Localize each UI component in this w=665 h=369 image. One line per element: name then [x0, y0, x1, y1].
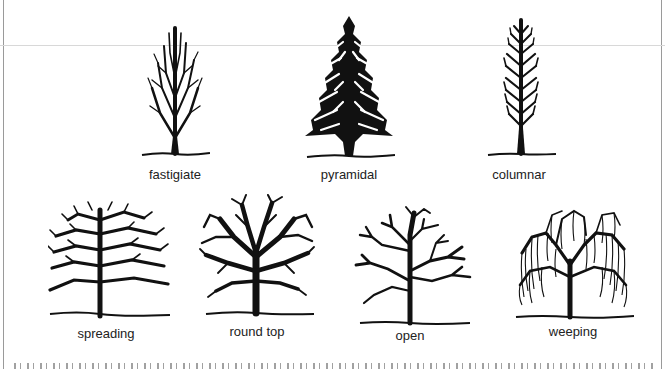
- caption-spreading: spreading: [77, 326, 134, 341]
- caption-columnar: columnar: [492, 167, 545, 182]
- text-fragment: [14, 363, 654, 369]
- open-figure: [352, 205, 472, 327]
- caption-open: open: [396, 328, 425, 343]
- pyramidal-tree-icon: [303, 12, 395, 160]
- columnar-tree-icon: [486, 14, 556, 158]
- open-tree-icon: [352, 205, 472, 327]
- weeping-tree-icon: [512, 205, 636, 321]
- clipped-body-text: [14, 360, 654, 369]
- caption-fastigiate: fastigiate: [149, 167, 201, 182]
- spreading-tree-icon: [48, 200, 170, 320]
- document-page: fastigiate pyramidal: [0, 0, 665, 369]
- weeping-figure: [512, 205, 636, 321]
- spreading-figure: [48, 200, 170, 320]
- columnar-figure: [486, 14, 556, 158]
- fastigiate-tree-icon: [140, 18, 210, 158]
- page-border-right: [661, 0, 662, 369]
- caption-weeping: weeping: [549, 324, 597, 339]
- caption-round-top: round top: [230, 324, 285, 339]
- fastigiate-figure: [140, 18, 210, 158]
- round-top-tree-icon: [198, 193, 316, 318]
- round-top-figure: [198, 193, 316, 318]
- pyramidal-figure: [303, 12, 395, 160]
- page-border-left: [3, 0, 4, 369]
- caption-pyramidal: pyramidal: [321, 167, 377, 182]
